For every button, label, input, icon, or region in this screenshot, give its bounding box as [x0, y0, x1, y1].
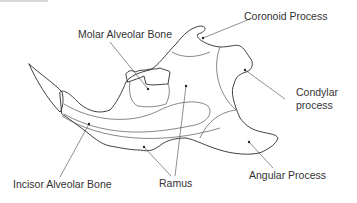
label-condylar-line1: Condylar: [296, 86, 338, 98]
angular-boundary: [200, 110, 236, 138]
incisor-tooth: [29, 64, 63, 112]
leader-ramus-1: [144, 147, 171, 176]
coronoid-boundary: [172, 52, 210, 57]
leader-ramus-2: [175, 86, 186, 176]
dot-condylar: [244, 69, 246, 71]
label-angular-process: Angular Process: [249, 169, 326, 181]
molar-alveolar-region: [129, 82, 169, 107]
dot-ramus-1: [143, 146, 145, 148]
dot-angular: [248, 141, 250, 143]
leader-incisor: [60, 124, 89, 177]
label-incisor-alveolar-bone: Incisor Alveolar Bone: [13, 178, 112, 190]
dot-coronoid: [202, 37, 204, 39]
incisor-root-lower: [62, 116, 220, 138]
label-molar-alveolar-bone: Molar Alveolar Bone: [78, 28, 172, 40]
label-condylar-line2: process: [296, 99, 333, 111]
dot-ramus-2: [185, 85, 187, 87]
label-ramus: Ramus: [159, 177, 192, 189]
leader-angular: [249, 142, 273, 168]
leader-condylar: [245, 70, 285, 99]
condylar-boundary: [217, 47, 236, 110]
label-coronoid-process: Coronoid Process: [244, 10, 327, 22]
leader-coronoid: [203, 19, 250, 38]
dot-molar: [147, 88, 149, 90]
dot-incisor: [88, 123, 90, 125]
